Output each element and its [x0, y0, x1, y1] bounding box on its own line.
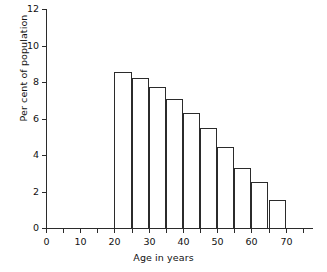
x-tick-label: 70: [280, 236, 292, 247]
y-tick: 10: [42, 46, 46, 47]
x-tick: 70: [286, 228, 287, 233]
bar: [132, 78, 149, 228]
x-tick: 40: [183, 228, 184, 233]
x-axis-label: Age in years: [0, 252, 327, 263]
x-tick: 50: [217, 228, 218, 233]
x-tick-label: 50: [211, 236, 223, 247]
x-minor-tick: [132, 228, 133, 233]
x-minor-tick: [63, 228, 64, 233]
y-tick: 6: [42, 119, 46, 120]
bar: [149, 87, 166, 228]
x-tick-label: 20: [108, 236, 120, 247]
y-tick-label: 4: [33, 149, 39, 160]
bar: [114, 72, 131, 228]
bar: [217, 147, 234, 228]
x-tick-label: 40: [177, 236, 189, 247]
y-tick-label: 10: [27, 40, 39, 51]
y-tick-label: 0: [33, 222, 39, 233]
y-axis-label: Per cent of population: [17, 0, 31, 143]
y-tick-label: 12: [27, 3, 39, 14]
x-axis-line: [46, 228, 313, 229]
y-tick-label: 6: [33, 113, 39, 124]
y-axis-line: [46, 9, 47, 228]
bar: [183, 113, 200, 228]
bar: [269, 200, 286, 228]
x-minor-tick: [234, 228, 235, 233]
x-tick-label: 0: [43, 236, 49, 247]
x-tick: 20: [114, 228, 115, 233]
x-tick: 0: [46, 228, 47, 233]
y-tick: 8: [42, 82, 46, 83]
bar: [166, 99, 183, 228]
y-tick: 12: [42, 9, 46, 10]
x-tick-label: 60: [245, 236, 257, 247]
x-minor-tick: [166, 228, 167, 233]
y-tick: 2: [42, 192, 46, 193]
x-minor-tick: [97, 228, 98, 233]
y-tick-label: 2: [33, 186, 39, 197]
x-minor-tick: [303, 228, 304, 233]
bar: [251, 182, 268, 228]
bar: [234, 168, 251, 228]
x-tick-label: 10: [74, 236, 86, 247]
plot-area: 024681012 010203040506070: [46, 9, 313, 228]
x-tick: 30: [149, 228, 150, 233]
x-tick-label: 30: [143, 236, 155, 247]
histogram-chart: Per cent of population 024681012 0102030…: [0, 0, 327, 272]
x-minor-tick: [269, 228, 270, 233]
x-minor-tick: [200, 228, 201, 233]
y-tick-label: 8: [33, 76, 39, 87]
x-tick: 60: [251, 228, 252, 233]
x-tick: 10: [80, 228, 81, 233]
bar: [200, 128, 217, 228]
y-tick: 4: [42, 155, 46, 156]
